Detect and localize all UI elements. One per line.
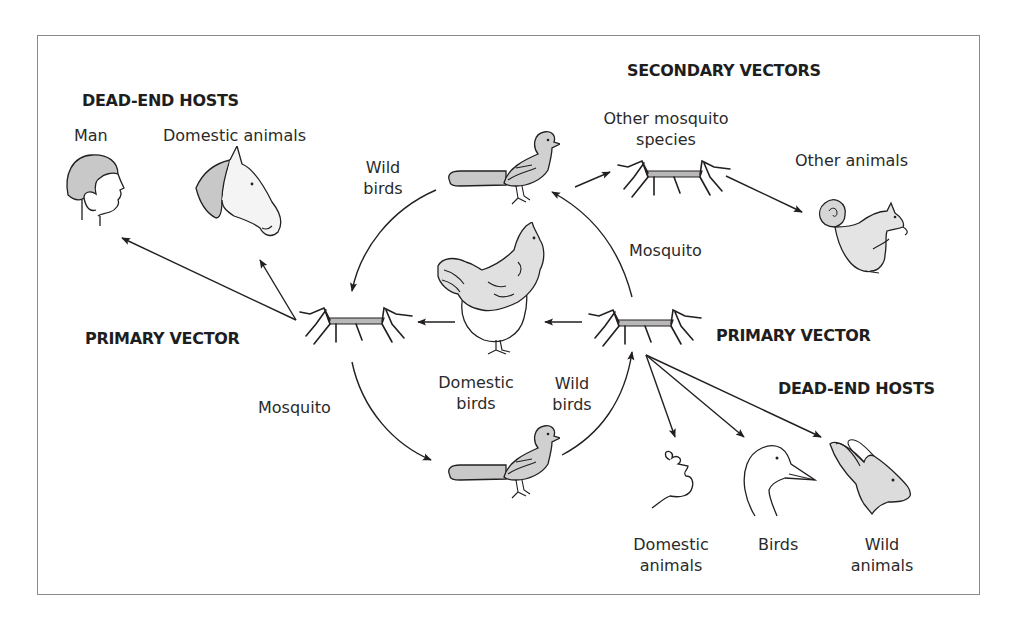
primary-vector-right-mosquito-icon — [585, 302, 705, 350]
heading-secondary-vectors: SECONDARY VECTORS — [627, 61, 821, 80]
label-mosquito-right: Mosquito — [629, 240, 702, 261]
arrow-wild-birds-to-primary-left — [352, 190, 436, 291]
rabbit-head-icon — [826, 436, 916, 516]
arrow-primary-left-to-wild-bird — [352, 362, 431, 460]
heading-dead-end-hosts-left: DEAD-END HOSTS — [82, 91, 239, 110]
arrow-to-other-mosquito — [575, 172, 610, 187]
label-wild-animals: Wild animals — [844, 534, 920, 576]
label-man: Man — [74, 125, 108, 146]
wild-bird-bottom-icon — [446, 422, 560, 504]
heading-dead-end-hosts-right: DEAD-END HOSTS — [778, 379, 935, 398]
duck-head-icon — [741, 440, 821, 520]
domestic-animal-head-icon — [648, 448, 708, 512]
squirrel-icon — [815, 193, 911, 279]
label-wild-birds-bottom: Wild birds — [547, 373, 597, 415]
man-head-icon — [60, 150, 130, 235]
label-birds: Birds — [758, 534, 798, 555]
arrow-to-other-animals — [726, 176, 802, 212]
primary-vector-left-mosquito-icon — [296, 300, 416, 348]
heading-primary-vector-right: PRIMARY VECTOR — [716, 326, 871, 345]
label-wild-birds-top: Wild birds — [358, 157, 408, 199]
label-other-animals: Other animals — [795, 150, 908, 171]
label-domestic-animals-top: Domestic animals — [163, 125, 306, 146]
domestic-bird-chicken-icon — [434, 222, 554, 362]
wild-bird-top-icon — [446, 128, 560, 210]
heading-primary-vector-left: PRIMARY VECTOR — [85, 329, 240, 348]
arrow-primary-right-to-wild-bird — [552, 192, 632, 297]
secondary-vector-mosquito-icon — [614, 153, 734, 201]
label-mosquito-left: Mosquito — [258, 397, 331, 418]
horse-head-icon — [192, 146, 292, 241]
label-other-mosquito-species: Other mosquito species — [596, 108, 736, 150]
label-domestic-animals-bottom: Domestic animals — [629, 534, 713, 576]
arrow-to-man — [122, 238, 296, 320]
label-domestic-birds: Domestic birds — [436, 372, 516, 414]
